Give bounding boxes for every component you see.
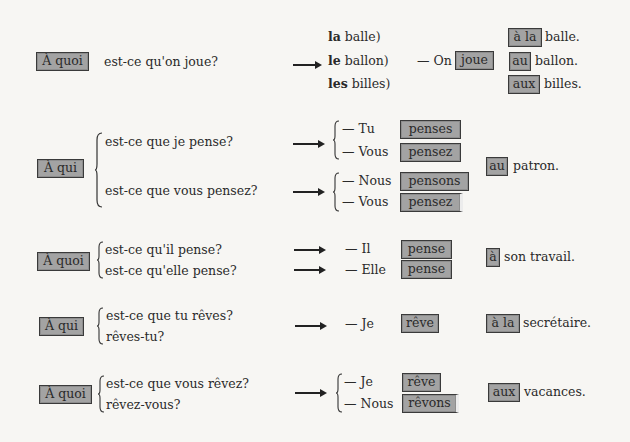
answer-subject: — Elle bbox=[345, 261, 386, 279]
question-text: est-ce que vous rêvez? bbox=[106, 375, 249, 393]
brace-icon bbox=[336, 373, 343, 413]
answer-subject: — Tu bbox=[342, 120, 375, 138]
question-text: est-ce qu'il pense? bbox=[105, 241, 222, 259]
question-text: est-ce qu'elle pense? bbox=[105, 262, 237, 280]
interrogative-box: À quoi bbox=[39, 385, 92, 404]
brace-icon bbox=[95, 132, 103, 208]
complement-text: secrétaire. bbox=[523, 314, 591, 332]
arrow-icon bbox=[293, 143, 321, 145]
verb-box: pensons bbox=[400, 172, 469, 191]
article-bold: les bbox=[328, 76, 348, 91]
arrow-icon bbox=[294, 269, 322, 271]
preposition-box: au bbox=[509, 52, 531, 71]
arrow-icon bbox=[293, 64, 318, 66]
complement-text: ballon. bbox=[535, 52, 578, 70]
article-noun: billes) bbox=[348, 76, 391, 91]
article-bold: le bbox=[328, 53, 341, 68]
answer-subject: — Il bbox=[345, 240, 370, 258]
verb-box: joue bbox=[455, 51, 494, 70]
interrogative-box: À quoi bbox=[37, 252, 90, 271]
complement-text: billes. bbox=[544, 75, 582, 93]
brace-icon bbox=[98, 375, 105, 413]
question-text: rêves-tu? bbox=[106, 328, 164, 346]
question-text: est-ce que tu rêves? bbox=[106, 307, 233, 325]
verb-box: pense bbox=[401, 260, 452, 279]
interrogative-box: À qui bbox=[37, 159, 84, 178]
article-les-billes: les billes) bbox=[328, 75, 390, 93]
brace-icon bbox=[333, 172, 340, 212]
article-noun: balle) bbox=[341, 29, 381, 44]
question-text: est-ce que vous pensez? bbox=[105, 182, 257, 200]
verb-box: pense bbox=[401, 240, 452, 259]
complement-text: balle. bbox=[545, 28, 580, 46]
interrogative-box: À quoi bbox=[36, 52, 89, 71]
brace-icon bbox=[333, 120, 340, 160]
preposition-box: à la bbox=[486, 314, 520, 333]
verb-box: rêve bbox=[402, 373, 441, 392]
answer-subject: — Je bbox=[345, 315, 374, 333]
interrogative-box: À qui bbox=[39, 317, 84, 336]
question-text: est-ce qu'on joue? bbox=[104, 53, 218, 71]
answer-subject: — Vous bbox=[342, 143, 388, 161]
article-bold: la bbox=[328, 29, 341, 44]
answer-subject: — Nous bbox=[342, 172, 391, 190]
preposition-box: aux bbox=[488, 383, 520, 402]
arrow-icon bbox=[293, 191, 321, 193]
preposition-box: à bbox=[486, 248, 500, 267]
answer-subject: — Nous bbox=[344, 395, 393, 413]
brace-icon bbox=[97, 307, 104, 345]
verb-box: rêvons bbox=[402, 394, 459, 413]
answer-subject: — Je bbox=[344, 373, 373, 391]
answer-subject: — Vous bbox=[342, 193, 388, 211]
complement-text: son travail. bbox=[504, 248, 575, 266]
verb-box: pensez bbox=[400, 193, 463, 212]
question-text: rêvez-vous? bbox=[106, 396, 180, 414]
preposition-box: aux bbox=[508, 75, 540, 94]
complement-text: patron. bbox=[513, 157, 559, 175]
arrow-icon bbox=[295, 392, 323, 394]
preposition-box: à la bbox=[508, 28, 542, 47]
verb-box: pensez bbox=[400, 143, 461, 162]
article-le-ballon: le ballon) bbox=[328, 52, 389, 70]
verb-box: penses bbox=[400, 120, 461, 139]
preposition-box: au bbox=[486, 157, 508, 176]
complement-text: vacances. bbox=[524, 383, 586, 401]
verb-box: rêve bbox=[401, 314, 439, 333]
arrow-icon bbox=[294, 249, 322, 251]
article-noun: ballon) bbox=[341, 53, 389, 68]
brace-icon bbox=[97, 241, 104, 279]
question-text: est-ce que je pense? bbox=[105, 133, 233, 151]
article-la-balle: la balle) bbox=[328, 28, 381, 46]
answer-subject: — On bbox=[417, 52, 452, 70]
arrow-icon bbox=[295, 325, 323, 327]
